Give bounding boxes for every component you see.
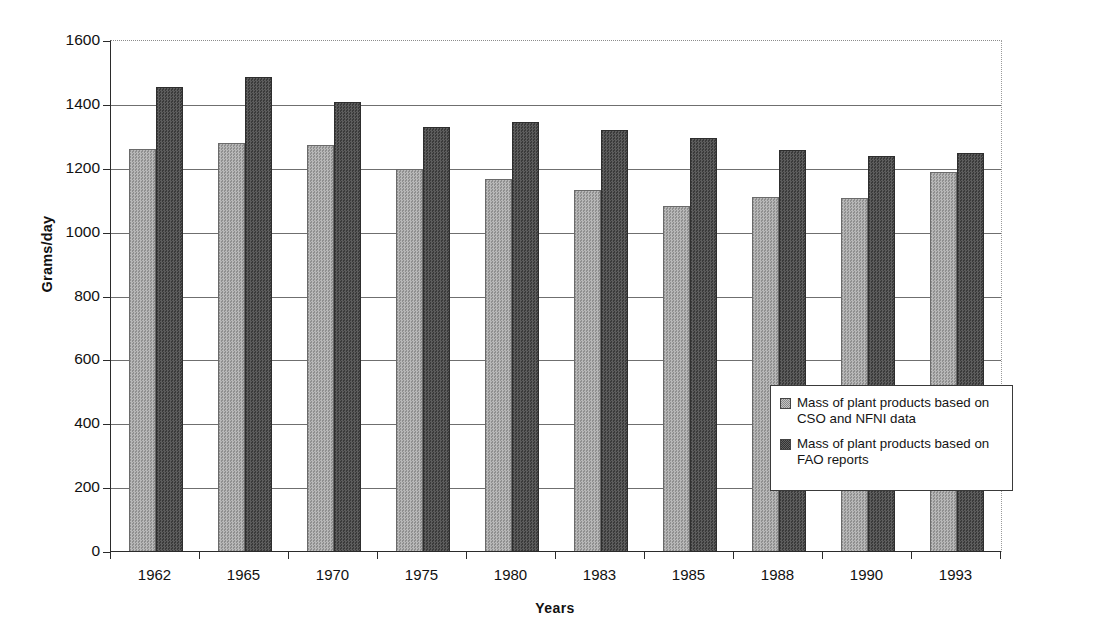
x-axis-tick [288, 551, 289, 559]
x-axis-tick [555, 551, 556, 559]
bar [512, 122, 539, 552]
x-axis-tick [1000, 551, 1001, 559]
legend-label-fao: Mass of plant products based on FAO repo… [797, 436, 1003, 467]
y-axis-tick-label: 800 [28, 287, 100, 305]
x-axis-tick [110, 551, 111, 559]
bar [841, 198, 868, 552]
bar [779, 150, 806, 552]
x-axis-tick-label: 1983 [555, 566, 645, 583]
y-axis-tick [103, 105, 111, 106]
x-axis-tick [466, 551, 467, 559]
bar [601, 130, 628, 552]
bar [752, 197, 779, 552]
bar [957, 153, 984, 552]
bar [245, 77, 272, 552]
y-axis-tick-label: 200 [28, 478, 100, 496]
legend-label-cso: Mass of plant products based on CSO and … [797, 395, 1003, 426]
bar [423, 127, 450, 552]
bar [574, 190, 601, 552]
y-axis-tick-label: 1000 [28, 223, 100, 241]
x-axis-tick-label: 1975 [377, 566, 467, 583]
x-axis-tick-label: 1970 [288, 566, 378, 583]
bar [690, 138, 717, 552]
bar [129, 149, 156, 552]
bar [307, 145, 334, 552]
bar [218, 143, 245, 552]
y-axis-tick-label: 1200 [28, 159, 100, 177]
x-axis-tick-label: 1965 [199, 566, 289, 583]
bar [663, 206, 690, 552]
legend-swatch-icon-cso [780, 398, 791, 409]
x-axis-tick-label: 1988 [733, 566, 823, 583]
x-axis-tick [733, 551, 734, 559]
bar [334, 102, 361, 552]
y-axis-tick [103, 360, 111, 361]
bar [156, 87, 183, 552]
y-axis-tick-label: 400 [28, 414, 100, 432]
y-axis-tick [103, 297, 111, 298]
y-axis-tick-label: 600 [28, 350, 100, 368]
x-axis-tick [199, 551, 200, 559]
x-axis-tick [822, 551, 823, 559]
y-axis-tick [103, 488, 111, 489]
x-axis-tick [911, 551, 912, 559]
x-axis-title: Years [110, 600, 1000, 616]
legend-item[interactable]: Mass of plant products based on CSO and … [780, 395, 1004, 426]
chart-legend: Mass of plant products based on CSO and … [770, 385, 1013, 491]
x-axis-tick [377, 551, 378, 559]
x-axis-tick-label: 1993 [911, 566, 1001, 583]
y-axis-tick-label: 1400 [28, 95, 100, 113]
y-axis-tick-label: 0 [28, 542, 100, 560]
legend-swatch-icon-fao [780, 439, 791, 450]
x-axis-tick-label: 1985 [644, 566, 734, 583]
bar [868, 156, 895, 552]
x-axis-tick-label: 1990 [822, 566, 912, 583]
x-axis-tick [644, 551, 645, 559]
x-axis-tick-label: 1980 [466, 566, 556, 583]
legend-item[interactable]: Mass of plant products based on FAO repo… [780, 436, 1004, 467]
y-axis-tick [103, 233, 111, 234]
bar [396, 169, 423, 552]
bar-chart-figure: Grams/day 02004006008001000120014001600 … [0, 0, 1120, 643]
y-axis-tick-label: 1600 [28, 31, 100, 49]
bar [930, 172, 957, 552]
y-axis-tick [103, 41, 111, 42]
bar [485, 179, 512, 552]
y-axis-tick [103, 424, 111, 425]
x-axis-tick-label: 1962 [110, 566, 200, 583]
y-axis-tick [103, 169, 111, 170]
